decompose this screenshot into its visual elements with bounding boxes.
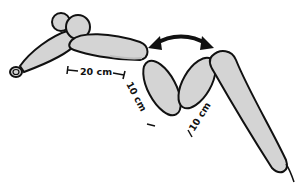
- measure-label-20cm: 20 cm: [80, 66, 112, 77]
- balloon-knot-icon: [10, 67, 22, 77]
- measure-20cm: 20 cm: [67, 66, 125, 79]
- balloon-diagram: 20 cm 10 cm 10 cm: [0, 0, 297, 185]
- balloon-segment-20cm: [69, 34, 147, 60]
- fold-arrow-icon: [148, 36, 214, 50]
- balloon-segment-long: [210, 51, 287, 172]
